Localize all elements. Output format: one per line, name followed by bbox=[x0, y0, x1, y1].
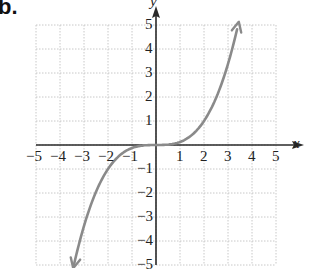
y-tick-label: 5 bbox=[145, 17, 153, 32]
x-tick-label: 4 bbox=[248, 149, 256, 164]
x-tick-label: −3 bbox=[74, 149, 90, 164]
y-tick-label: 3 bbox=[145, 65, 153, 80]
y-tick-label: −5 bbox=[137, 257, 153, 272]
y-axis-label: y bbox=[150, 0, 157, 9]
y-tick-label: 1 bbox=[145, 113, 153, 128]
y-tick-label: −4 bbox=[137, 233, 153, 248]
x-tick-label: 5 bbox=[272, 149, 280, 164]
x-tick-label: 2 bbox=[200, 149, 208, 164]
y-tick-label: 2 bbox=[145, 89, 153, 104]
x-tick-label: 1 bbox=[176, 149, 184, 164]
y-tick-label: −3 bbox=[137, 209, 153, 224]
y-tick-label: −2 bbox=[137, 185, 153, 200]
x-tick-label: −5 bbox=[26, 149, 42, 164]
x-tick-label: −4 bbox=[50, 149, 66, 164]
x-tick-label: 3 bbox=[224, 149, 232, 164]
axes bbox=[36, 6, 304, 265]
y-tick-label: 4 bbox=[145, 41, 153, 56]
x-tick-label: −2 bbox=[98, 149, 114, 164]
y-tick-label: −1 bbox=[137, 161, 153, 176]
x-axis-label: x bbox=[293, 136, 300, 151]
x-tick-label: −1 bbox=[122, 149, 138, 164]
